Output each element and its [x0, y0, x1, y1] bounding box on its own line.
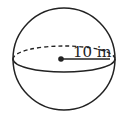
radius-label: 10 in — [73, 43, 112, 61]
center-point — [58, 56, 64, 62]
sphere-diagram: 10 in — [0, 0, 121, 120]
